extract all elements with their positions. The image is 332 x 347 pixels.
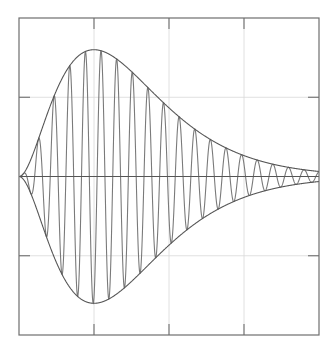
chart-canvas [0,0,332,347]
